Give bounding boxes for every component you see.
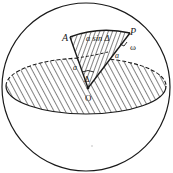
label-a: A [61, 32, 69, 43]
diagram-canvas: A P O a sin Δ ω a a Δ [0, 0, 173, 173]
faint-dot [91, 145, 93, 147]
sphere-diagram: A P O a sin Δ ω a a Δ [0, 0, 173, 173]
label-o: O [85, 93, 92, 103]
center-point [87, 87, 90, 90]
label-delta: Δ [84, 74, 90, 84]
label-radius-left: a [73, 63, 77, 72]
label-p: P [129, 26, 136, 37]
label-arc-length: a sin Δ [86, 33, 109, 43]
label-omega: ω [130, 42, 136, 52]
label-radius-right: a [115, 51, 119, 60]
